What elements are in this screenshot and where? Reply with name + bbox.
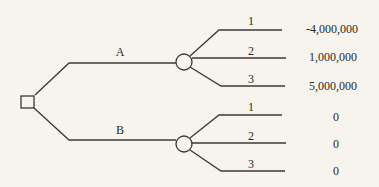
branch-B-3 xyxy=(190,150,285,171)
payoff-A-1: -4,000,000 xyxy=(306,23,358,35)
outcome-label-A-2: 2 xyxy=(248,45,254,57)
outcome-label-B-1: 1 xyxy=(248,101,254,113)
branch-A xyxy=(35,63,176,95)
payoff-B-2: 0 xyxy=(333,138,339,150)
outcome-label-B-2: 2 xyxy=(248,130,254,142)
payoff-A-2: 1,000,000 xyxy=(309,51,357,63)
option-label-A: A xyxy=(116,46,125,58)
branch-A-1 xyxy=(190,30,282,56)
chance-node-A xyxy=(176,54,192,70)
outcome-label-B-3: 3 xyxy=(248,158,254,170)
payoff-B-3: 0 xyxy=(333,165,339,177)
decision-node xyxy=(21,96,34,108)
branch-A-3 xyxy=(190,67,285,86)
payoff-A-3: 5,000,000 xyxy=(309,80,357,92)
branch-B xyxy=(34,108,176,140)
outcome-label-A-3: 3 xyxy=(248,73,254,85)
payoff-B-1: 0 xyxy=(333,111,339,123)
chance-node-B xyxy=(176,136,192,152)
outcome-label-A-1: 1 xyxy=(248,15,254,27)
option-label-B: B xyxy=(116,124,124,136)
branch-B-1 xyxy=(190,115,282,138)
